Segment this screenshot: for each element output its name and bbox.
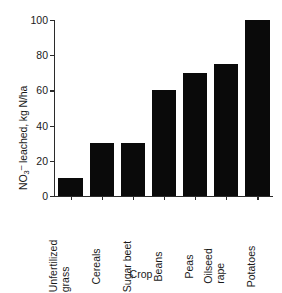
y-axis-label-superscript: – bbox=[16, 166, 26, 171]
x-category-label-text: Unfertilizedgrass bbox=[48, 240, 71, 293]
bar[interactable] bbox=[121, 143, 145, 196]
x-category-label-line: grass bbox=[59, 240, 71, 293]
x-category-label-text: Potatoes bbox=[246, 245, 258, 286]
x-category-label: Beans bbox=[148, 200, 179, 266]
y-axis-line bbox=[54, 20, 55, 197]
x-category-label: Unfertilizedgrass bbox=[55, 200, 86, 266]
y-tick-mark bbox=[50, 55, 54, 56]
bar[interactable] bbox=[90, 143, 114, 196]
y-axis-label: NO3– leached, kg N/ha bbox=[17, 86, 31, 190]
y-tick-label: 0 bbox=[42, 191, 48, 202]
bar[interactable] bbox=[214, 64, 238, 196]
x-category-label: Potatoes bbox=[242, 200, 273, 266]
y-tick-label: 40 bbox=[36, 120, 48, 131]
bar[interactable] bbox=[152, 90, 176, 196]
x-category-label: Sugar beet bbox=[117, 200, 148, 266]
plot-area: 020406080100 bbox=[55, 20, 273, 196]
y-tick-label: 80 bbox=[36, 50, 48, 61]
bar[interactable] bbox=[58, 178, 82, 196]
y-tick-mark bbox=[50, 126, 54, 127]
x-category-label: Oilseedrape bbox=[211, 200, 242, 266]
y-axis-label-suffix: leached, kg N/ha bbox=[17, 86, 29, 166]
y-axis-label-subscript: 3 bbox=[22, 170, 31, 174]
y-tick-label: 20 bbox=[36, 156, 48, 167]
x-category-label: Cereals bbox=[86, 200, 117, 266]
y-tick-mark bbox=[50, 20, 54, 21]
y-tick-mark bbox=[50, 90, 54, 91]
bar[interactable] bbox=[245, 20, 269, 196]
y-tick-mark bbox=[50, 196, 54, 197]
y-axis-label-container: NO3– leached, kg N/ha bbox=[0, 0, 22, 200]
y-tick-label: 60 bbox=[36, 85, 48, 96]
x-category-label-text: Sugar beet bbox=[121, 240, 133, 291]
y-tick-label: 100 bbox=[30, 15, 48, 26]
x-category-label-line: Sugar beet bbox=[120, 240, 132, 291]
x-category-label-group: UnfertilizedgrassCerealsSugar beetBeansP… bbox=[55, 200, 273, 266]
x-category-label-line: Potatoes bbox=[245, 245, 257, 286]
x-axis-label: Crop bbox=[0, 268, 282, 280]
bar-chart-figure: NO3– leached, kg N/ha 020406080100 Unfer… bbox=[0, 0, 282, 293]
y-axis-label-prefix: NO bbox=[17, 174, 29, 190]
bar[interactable] bbox=[183, 73, 207, 196]
y-tick-mark bbox=[50, 161, 54, 162]
x-category-label-line: Unfertilized bbox=[47, 240, 59, 293]
